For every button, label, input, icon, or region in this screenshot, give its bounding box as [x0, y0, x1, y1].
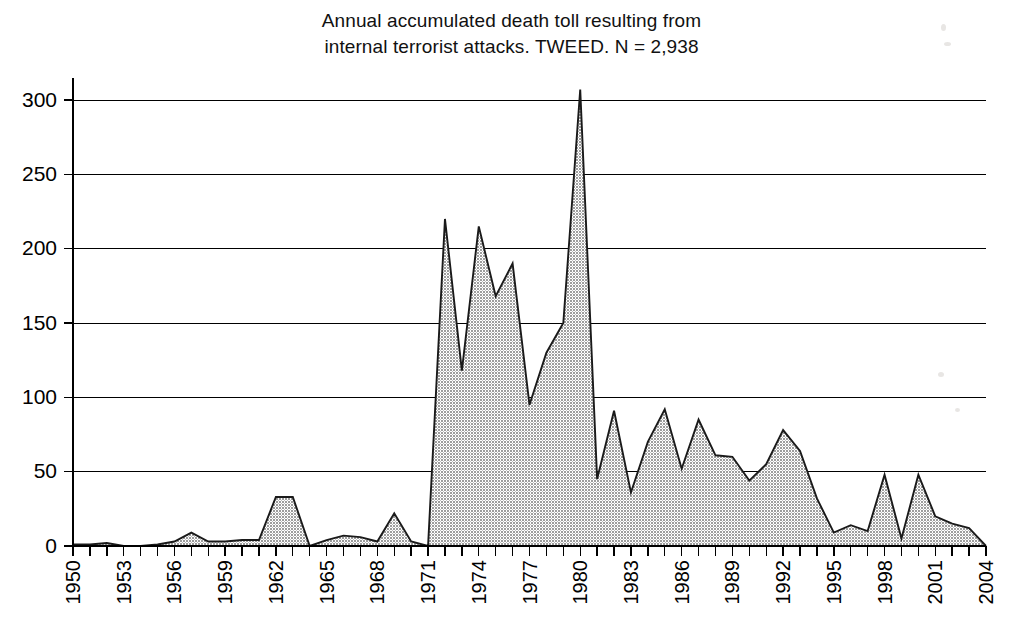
x-tick-label-1983: 1983 [620, 560, 642, 605]
x-tick-label-1956: 1956 [163, 560, 185, 605]
x-tick-label-1995: 1995 [823, 560, 845, 605]
y-tick-label-50: 50 [34, 459, 57, 482]
y-tick-label-100: 100 [22, 385, 57, 408]
chart-plot-area: 050100150200250300 195019531956195919621… [0, 0, 1023, 632]
x-tick-label-1989: 1989 [721, 560, 743, 605]
x-tick-label-1998: 1998 [874, 560, 896, 605]
x-axis-ticks-group: 1950195319561959196219651968197119741977… [62, 546, 997, 605]
y-tick-label-300: 300 [22, 88, 57, 111]
y-tick-label-150: 150 [22, 311, 57, 334]
x-tick-label-1974: 1974 [468, 560, 490, 605]
x-tick-label-1959: 1959 [214, 560, 236, 605]
y-tick-label-200: 200 [22, 236, 57, 259]
area-series-group [73, 90, 986, 546]
x-tick-label-1953: 1953 [113, 560, 135, 605]
x-tick-label-2004: 2004 [975, 560, 997, 605]
x-tick-label-1962: 1962 [265, 560, 287, 605]
x-tick-label-1950: 1950 [62, 560, 84, 605]
y-tick-label-250: 250 [22, 162, 57, 185]
y-tick-label-0: 0 [45, 534, 57, 557]
x-tick-label-1977: 1977 [519, 560, 541, 605]
x-tick-label-1968: 1968 [366, 560, 388, 605]
x-tick-label-2001: 2001 [924, 560, 946, 605]
x-tick-label-1965: 1965 [316, 560, 338, 605]
chart-figure: Annual accumulated death toll resulting … [0, 0, 1023, 632]
x-tick-label-1992: 1992 [772, 560, 794, 605]
area-fill-path [73, 90, 986, 546]
x-tick-label-1986: 1986 [671, 560, 693, 605]
x-tick-label-1980: 1980 [569, 560, 591, 605]
y-axis-ticks-group: 050100150200250300 [22, 88, 73, 557]
x-tick-label-1971: 1971 [417, 560, 439, 605]
